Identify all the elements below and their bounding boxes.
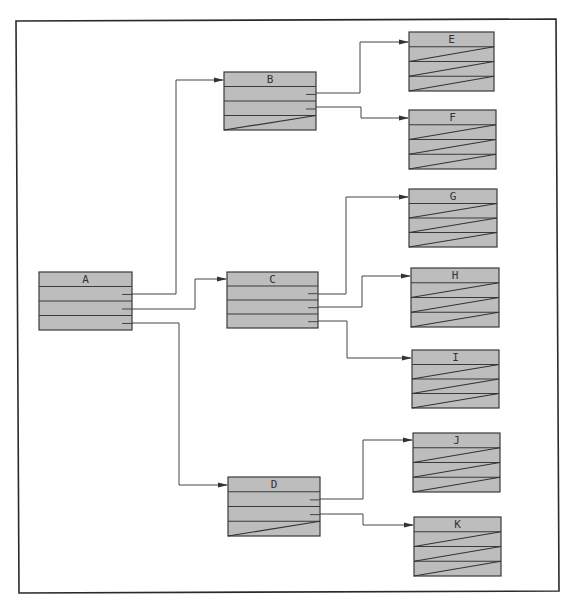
node-a: A xyxy=(39,272,132,330)
node-e: E xyxy=(409,32,494,91)
arrowhead-icon xyxy=(402,356,412,361)
arrowhead-icon xyxy=(399,116,409,121)
edge-b-e xyxy=(306,40,409,94)
edge-a-d xyxy=(122,323,228,488)
node-label: J xyxy=(453,434,460,447)
arrowhead-icon xyxy=(218,483,228,488)
edge-c-g xyxy=(308,195,409,295)
record-nodes: ABCDEFGHIJK xyxy=(39,32,501,576)
node-label: C xyxy=(269,273,276,286)
node-c: C xyxy=(227,272,318,328)
node-label: F xyxy=(449,111,456,124)
node-label: A xyxy=(82,273,89,286)
node-label: D xyxy=(271,478,278,491)
arrowhead-icon xyxy=(403,438,413,443)
node-label: E xyxy=(448,33,455,46)
edge-c-i xyxy=(308,321,412,361)
edge-a-b xyxy=(122,78,224,295)
node-i: I xyxy=(412,350,499,408)
edge-d-k xyxy=(310,514,414,528)
tree-diagram: ABCDEFGHIJK xyxy=(0,0,575,605)
node-label: H xyxy=(452,269,459,282)
arrowhead-icon xyxy=(214,78,224,83)
node-f: F xyxy=(409,110,496,169)
arrowhead-icon xyxy=(217,277,227,282)
node-label: G xyxy=(450,190,457,203)
node-k: K xyxy=(414,517,501,576)
node-label: I xyxy=(452,351,459,364)
node-h: H xyxy=(411,268,499,327)
node-label: B xyxy=(267,73,274,86)
arrowhead-icon xyxy=(399,40,409,45)
node-label: K xyxy=(454,518,461,531)
edge-c-h xyxy=(308,274,411,308)
arrowhead-icon xyxy=(404,523,414,528)
edge-a-c xyxy=(122,277,227,310)
node-j: J xyxy=(413,433,500,492)
node-g: G xyxy=(409,189,497,247)
node-b: B xyxy=(224,72,316,130)
edge-b-f xyxy=(306,107,409,121)
edge-d-j xyxy=(310,438,413,500)
arrowhead-icon xyxy=(401,274,411,279)
arrowhead-icon xyxy=(399,195,409,200)
node-d: D xyxy=(228,477,320,536)
